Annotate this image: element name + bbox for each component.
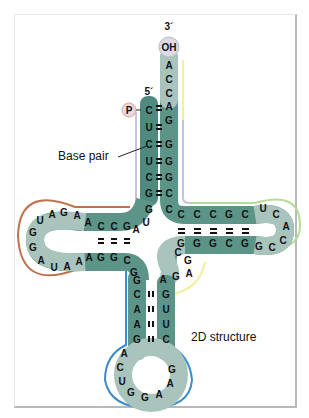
trna-diagram: OH 3´ 5´ P A C C A C U C U xyxy=(0,0,309,418)
nt-acloop-2: C xyxy=(116,362,123,373)
nt-acloop-8: G xyxy=(168,364,176,375)
nt-acl-3: A xyxy=(133,304,140,315)
nt-a3-5: G xyxy=(165,172,173,183)
nt-var-1: A xyxy=(159,274,166,285)
nt-a3-3: G xyxy=(165,139,173,150)
nt-var-4: G xyxy=(184,255,192,266)
nt-tbot-3: G xyxy=(209,238,217,249)
nt-acr-4: G xyxy=(162,289,170,300)
nt-acloop-3: U xyxy=(118,376,125,387)
nt-tail-2: C xyxy=(165,74,172,85)
nt-dloop-6: G xyxy=(29,242,37,253)
nt-dtop-2: C xyxy=(97,221,104,232)
nt-dloop-7: A xyxy=(37,255,44,266)
oh-label: OH xyxy=(162,42,177,53)
nt-dloop-10: A xyxy=(75,256,82,267)
nt-tloop-4: A xyxy=(282,221,289,232)
nt-dloop-8: U xyxy=(50,262,57,273)
nt-a5-3: C xyxy=(145,139,152,150)
nt-dbot-4: C xyxy=(123,255,130,266)
nt-ttop-5: C xyxy=(241,209,248,220)
nt-dloop-1: A xyxy=(73,210,80,221)
nt-acr-1: C xyxy=(162,334,169,345)
nt-tbot-4: C xyxy=(225,238,232,249)
nt-tail-3: C xyxy=(165,88,172,99)
nt-acr-2: U xyxy=(162,319,169,330)
nt-a5-7: G xyxy=(145,204,153,215)
nt-acl-2: C xyxy=(133,289,140,300)
nt-dloop-4: U xyxy=(36,215,43,226)
nt-tloop-5: C xyxy=(272,209,279,220)
nt-tloop-3: C xyxy=(279,235,286,246)
nt-dtop-4: G xyxy=(123,221,131,232)
nt-a3-4: G xyxy=(165,156,173,167)
nt-var-3: A xyxy=(185,268,192,279)
nt-dloop-2: G xyxy=(60,207,68,218)
nt-tbot-1: G xyxy=(177,238,185,249)
nt-tloop-6: U xyxy=(259,203,266,214)
nt-a5-6: G xyxy=(145,188,153,199)
nt-a5-5: C xyxy=(145,172,152,183)
nt-acloop-5: G xyxy=(141,392,149,403)
phosphate-label: P xyxy=(126,105,133,116)
nt-ttop-2: C xyxy=(193,209,200,220)
three-prime-label: 3´ xyxy=(165,21,174,32)
nt-tloop-2: C xyxy=(268,242,275,253)
five-prime-label: 5´ xyxy=(145,86,154,97)
nt-dloop-5: G xyxy=(29,227,37,238)
nt-j1-1: U xyxy=(142,217,149,228)
nt-a5-1: C xyxy=(145,105,152,116)
nt-a3-7: C xyxy=(165,204,172,215)
nt-acloop-4: G xyxy=(127,387,135,398)
nt-acl-1: G xyxy=(133,275,141,286)
nt-dtop-1: A xyxy=(84,217,91,228)
acceptor-3prime-outline-lower xyxy=(183,120,240,203)
nt-j1-2: A xyxy=(132,224,139,235)
nt-dtop-3: C xyxy=(110,221,117,232)
nt-acr-3: U xyxy=(162,304,169,315)
nt-a5-4: U xyxy=(145,156,152,167)
nt-acloop-1: A xyxy=(120,348,127,359)
nt-dloop-3: A xyxy=(48,209,55,220)
nt-a5-2: U xyxy=(145,122,152,133)
nt-a3-6: C xyxy=(165,188,172,199)
nt-dbot-2: G xyxy=(97,252,105,263)
nt-tail-4: A xyxy=(165,101,172,112)
nt-acloop-6: A xyxy=(155,389,162,400)
structure-label: 2D structure xyxy=(191,330,257,344)
nt-tloop-1: G xyxy=(255,241,263,252)
nt-a3-1: G xyxy=(165,115,173,126)
nt-dbot-1: A xyxy=(85,252,92,263)
nt-acl-5: G xyxy=(133,334,141,345)
nt-ttop-3: C xyxy=(209,209,216,220)
acceptor-3prime-stem xyxy=(169,58,250,215)
nt-var-2: G xyxy=(172,271,180,282)
nt-ttop-4: G xyxy=(225,209,233,220)
nt-acloop-7: A xyxy=(166,378,173,389)
nt-tail-1: A xyxy=(165,60,172,71)
nt-acl-4: A xyxy=(133,319,140,330)
nt-tbot-2: G xyxy=(193,238,201,249)
nt-ttop-1: C xyxy=(177,209,184,220)
base-pair-label: Base pair xyxy=(58,149,109,163)
nt-dloop-9: A xyxy=(63,261,70,272)
nt-dbot-3: G xyxy=(110,252,118,263)
nt-tbot-5: G xyxy=(241,238,249,249)
